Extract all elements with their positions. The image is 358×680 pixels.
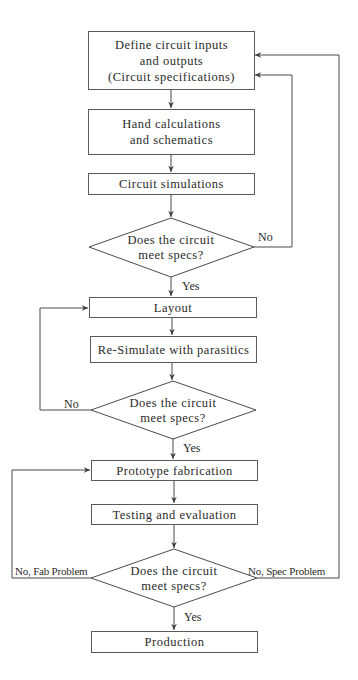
step-text: Production <box>145 634 205 650</box>
step-text: Prototype fabrication <box>116 463 232 479</box>
decision-line: meet specs? <box>114 579 234 594</box>
edge-label-yes-3: Yes <box>184 610 201 624</box>
decision-line: meet specs? <box>113 411 233 426</box>
step-text: (Circuit specifications) <box>108 69 235 85</box>
decision-text-2: Does the circuit meet specs? <box>113 396 233 426</box>
step-text: and schematics <box>130 132 213 148</box>
edge-label-yes-2: Yes <box>183 441 200 455</box>
step-text: and outputs <box>140 53 203 69</box>
step-text: Layout <box>154 300 192 316</box>
step-production: Production <box>91 631 258 653</box>
edge-label-no-fab-problem: No, Fab Problem <box>15 564 87 578</box>
step-text: Hand calculations <box>122 116 220 132</box>
decision-text-3: Does the circuit meet specs? <box>114 564 234 594</box>
step-text: Testing and evaluation <box>113 507 237 523</box>
step-layout: Layout <box>89 297 257 318</box>
step-text: Define circuit inputs <box>115 37 228 53</box>
decision-line: meet specs? <box>111 248 231 263</box>
edge-label-no-2: No <box>64 397 79 411</box>
step-hand-calculations: Hand calculations and schematics <box>88 109 255 155</box>
step-circuit-simulations: Circuit simulations <box>88 173 255 195</box>
edge-label-yes-1: Yes <box>182 279 199 293</box>
step-text: Circuit simulations <box>119 176 224 192</box>
step-testing-evaluation: Testing and evaluation <box>91 504 258 525</box>
step-text: Re-Simulate with parasitics <box>98 342 250 358</box>
decision-text-1: Does the circuit meet specs? <box>111 233 231 263</box>
decision-line: Does the circuit <box>111 233 231 248</box>
step-prototype-fabrication: Prototype fabrication <box>91 460 258 481</box>
step-resimulate-parasitics: Re-Simulate with parasitics <box>90 336 257 363</box>
edge-label-no-spec-problem: No, Spec Problem <box>248 564 325 578</box>
step-define-specs: Define circuit inputs and outputs (Circu… <box>88 31 255 90</box>
decision-line: Does the circuit <box>114 564 234 579</box>
edge-label-no-1: No <box>258 230 273 244</box>
decision-line: Does the circuit <box>113 396 233 411</box>
